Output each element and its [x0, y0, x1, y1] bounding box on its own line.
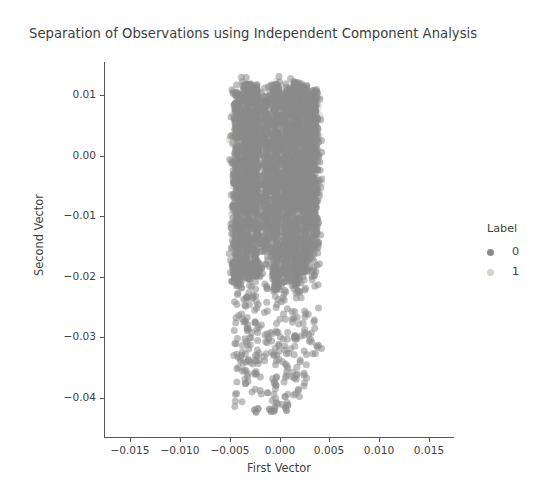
- x-tick-mark: [280, 438, 281, 442]
- x-tick-label: −0.010: [152, 444, 208, 456]
- y-axis-spine: [104, 62, 105, 438]
- x-tick-label: −0.005: [202, 444, 258, 456]
- legend-item[interactable]: 0: [478, 242, 548, 262]
- chart-figure: Separation of Observations using Indepen…: [0, 0, 554, 494]
- y-tick-label: −0.02: [44, 270, 96, 282]
- legend-marker-icon: [487, 249, 494, 256]
- x-axis-spine: [104, 437, 454, 438]
- legend-marker-icon: [487, 269, 494, 276]
- y-tick-mark: [100, 337, 104, 338]
- y-tick-mark: [100, 95, 104, 96]
- x-tick-mark: [379, 438, 380, 442]
- legend-item[interactable]: 1: [478, 262, 548, 282]
- y-tick-label: −0.03: [44, 330, 96, 342]
- x-tick-label: 0.005: [301, 444, 357, 456]
- legend-title: Label: [487, 222, 548, 235]
- y-tick-label: 0.01: [44, 88, 96, 100]
- y-tick-mark: [100, 216, 104, 217]
- x-tick-mark: [130, 438, 131, 442]
- plot-area: [105, 62, 454, 437]
- y-tick-mark: [100, 398, 104, 399]
- x-tick-mark: [429, 438, 430, 442]
- x-tick-label: 0.010: [351, 444, 407, 456]
- x-tick-mark: [180, 438, 181, 442]
- x-tick-label: −0.015: [102, 444, 158, 456]
- y-tick-label: −0.04: [44, 391, 96, 403]
- x-tick-mark: [230, 438, 231, 442]
- y-tick-label: 0.00: [44, 149, 96, 161]
- x-axis-label: First Vector: [199, 461, 359, 475]
- y-tick-mark: [100, 156, 104, 157]
- x-tick-label: 0.015: [401, 444, 457, 456]
- y-tick-mark: [100, 277, 104, 278]
- scatter-plot-canvas: [105, 62, 454, 437]
- legend-item-label: 0: [512, 246, 519, 257]
- y-tick-label: −0.01: [44, 209, 96, 221]
- legend-entries: 01: [478, 242, 548, 282]
- x-tick-label: 0.000: [252, 444, 308, 456]
- y-axis-label: Second Vector: [32, 175, 46, 295]
- x-tick-mark: [329, 438, 330, 442]
- legend-item-label: 1: [512, 266, 519, 277]
- legend: Label 01: [478, 222, 548, 282]
- chart-title: Separation of Observations using Indepen…: [29, 26, 539, 41]
